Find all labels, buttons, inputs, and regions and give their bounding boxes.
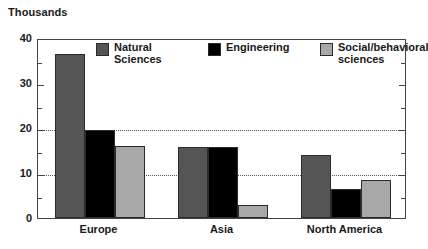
y-axis-unit-label: Thousands bbox=[8, 6, 68, 18]
y-tick-label-20: 20 bbox=[6, 122, 32, 134]
legend-swatch-natural-sciences bbox=[96, 43, 109, 56]
legend-item-social-behavioral-sciences: Social/behavioral sciences bbox=[320, 42, 428, 65]
legend-label-natural-sciences: Natural Sciences bbox=[114, 42, 162, 65]
legend-swatch-engineering bbox=[208, 43, 221, 56]
y-tick-label-40: 40 bbox=[6, 32, 32, 44]
y-tick-label-30: 30 bbox=[6, 77, 32, 89]
legend-label-engineering: Engineering bbox=[226, 42, 290, 54]
y-tick-label-10: 10 bbox=[6, 167, 32, 179]
x-tick-label-north-america: North America bbox=[283, 223, 406, 235]
bar bbox=[208, 147, 238, 218]
bar bbox=[178, 147, 208, 218]
x-tick-label-asia: Asia bbox=[160, 223, 283, 235]
bar bbox=[331, 189, 361, 218]
legend-item-engineering: Engineering bbox=[208, 42, 290, 56]
legend-label-social-behavioral-sciences: Social/behavioral sciences bbox=[338, 42, 428, 65]
bar bbox=[238, 205, 268, 219]
legend-swatch-social-behavioral-sciences bbox=[320, 43, 333, 56]
bar bbox=[55, 54, 85, 218]
bar bbox=[115, 146, 145, 218]
legend-item-natural-sciences: Natural Sciences bbox=[96, 42, 162, 65]
bar bbox=[361, 180, 391, 218]
x-tick-label-europe: Europe bbox=[37, 223, 160, 235]
bar bbox=[85, 130, 115, 218]
y-tick-label-0: 0 bbox=[6, 212, 32, 224]
chart-legend: Natural SciencesEngineeringSocial/behavi… bbox=[96, 42, 406, 68]
bar bbox=[301, 155, 331, 218]
